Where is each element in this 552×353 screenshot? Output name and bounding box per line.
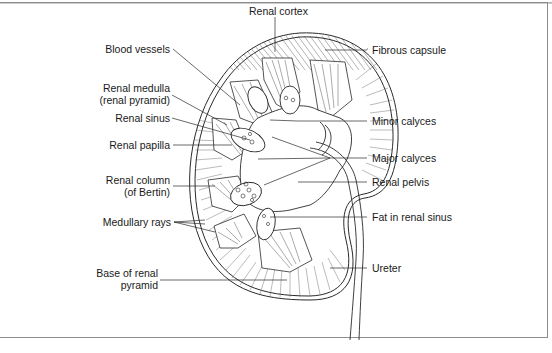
label-renal-medulla-line2: (renal pyramid) (99, 94, 170, 106)
label-renal-cortex: Renal cortex (249, 5, 308, 17)
label-renal-papilla: Renal papilla (109, 139, 170, 151)
label-fibrous-capsule: Fibrous capsule (372, 44, 446, 56)
label-base-of-renal-pyramid-line2: pyramid (96, 279, 158, 291)
label-medullary-rays: Medullary rays (103, 216, 171, 228)
label-ureter: Ureter (372, 262, 401, 274)
label-renal-column: Renal column (of Bertin) (106, 174, 170, 198)
label-minor-calyces: Minor calyces (372, 115, 436, 127)
label-major-calyces: Major calyces (372, 152, 436, 164)
label-renal-pelvis: Renal pelvis (372, 176, 429, 188)
label-renal-column-line1: Renal column (106, 174, 170, 186)
kidney-cross-section-illustration (0, 0, 552, 353)
label-renal-medulla-line1: Renal medulla (99, 82, 170, 94)
label-base-of-renal-pyramid: Base of renal pyramid (96, 267, 158, 291)
label-blood-vessels: Blood vessels (105, 43, 170, 55)
label-renal-column-line2: (of Bertin) (106, 186, 170, 198)
label-base-of-renal-pyramid-line1: Base of renal (96, 267, 158, 279)
label-fat-in-renal-sinus: Fat in renal sinus (372, 211, 452, 223)
label-renal-sinus: Renal sinus (115, 112, 170, 124)
label-renal-medulla: Renal medulla (renal pyramid) (99, 82, 170, 106)
